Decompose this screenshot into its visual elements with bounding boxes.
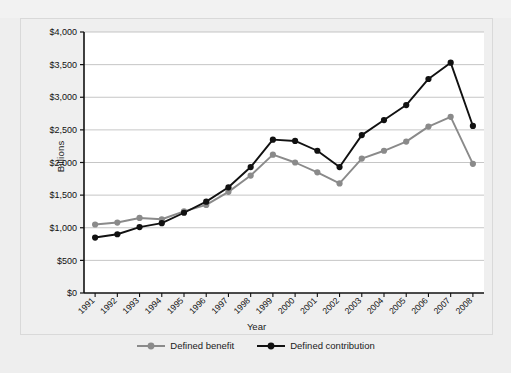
data-point	[381, 148, 387, 154]
chart-card: Billions Year $0$500$1,000$1,500$2,000$2…	[20, 18, 493, 335]
x-tick-label: 1998	[231, 295, 252, 316]
data-point	[136, 224, 142, 230]
y-tick-label: $1,500	[49, 190, 77, 200]
data-point	[314, 169, 320, 175]
x-tick-label: 1999	[254, 295, 275, 316]
legend-item-defined-benefit[interactable]: Defined benefit	[136, 340, 234, 351]
data-point	[270, 152, 276, 158]
figure-top-band	[0, 0, 511, 18]
legend-marker-icon	[136, 341, 166, 351]
data-point	[92, 234, 98, 240]
data-point	[203, 199, 209, 205]
y-tick-label: $0	[67, 288, 77, 298]
x-tick-label: 2003	[343, 295, 364, 316]
x-tick-label: 1994	[143, 295, 164, 316]
x-tick-label: 1992	[98, 295, 119, 316]
y-tick-label: $4,000	[49, 27, 77, 37]
x-tick-label: 1993	[120, 295, 141, 316]
x-tick-label: 1997	[209, 295, 230, 316]
data-point	[181, 210, 187, 216]
data-point	[336, 164, 342, 170]
x-tick-label: 2008	[454, 295, 475, 316]
data-point	[425, 124, 431, 130]
chart-legend: Defined benefitDefined contribution	[0, 340, 511, 351]
data-point	[470, 161, 476, 167]
x-tick-label: 1991	[76, 295, 97, 316]
data-point	[359, 155, 365, 161]
y-tick-label: $3,500	[49, 60, 77, 70]
y-tick-label: $500	[57, 256, 77, 266]
data-point	[470, 123, 476, 129]
x-tick-label: 2007	[431, 295, 452, 316]
data-point	[92, 221, 98, 227]
data-point	[336, 180, 342, 186]
data-point	[403, 102, 409, 108]
x-tick-label: 2006	[409, 295, 430, 316]
y-tick-label: $3,000	[49, 92, 77, 102]
x-tick-label: 2002	[320, 295, 341, 316]
data-point	[425, 76, 431, 82]
y-tick-label: $2,500	[49, 125, 77, 135]
data-point	[448, 114, 454, 120]
data-point	[359, 132, 365, 138]
x-tick-label: 1996	[187, 295, 208, 316]
data-point	[225, 184, 231, 190]
data-point	[314, 148, 320, 154]
plot-area: $0$500$1,000$1,500$2,000$2,500$3,000$3,5…	[21, 19, 492, 323]
data-point	[292, 138, 298, 144]
legend-marker-icon	[256, 341, 286, 351]
legend-label: Defined benefit	[170, 340, 234, 351]
data-point	[381, 117, 387, 123]
x-tick-label: 1995	[165, 295, 186, 316]
data-point	[270, 137, 276, 143]
x-tick-label: 2005	[387, 295, 408, 316]
data-point	[403, 139, 409, 145]
data-point	[448, 60, 454, 66]
y-tick-label: $1,000	[49, 223, 77, 233]
data-point	[136, 215, 142, 221]
x-tick-label: 2001	[298, 295, 319, 316]
chart-figure: Billions Year $0$500$1,000$1,500$2,000$2…	[0, 0, 511, 373]
data-point	[114, 231, 120, 237]
x-tick-label: 2000	[276, 295, 297, 316]
legend-label: Defined contribution	[290, 340, 375, 351]
x-tick-label: 2004	[365, 295, 386, 316]
y-tick-label: $2,000	[49, 158, 77, 168]
data-point	[159, 220, 165, 226]
legend-item-defined-contribution[interactable]: Defined contribution	[256, 340, 375, 351]
data-point	[114, 219, 120, 225]
line-chart-svg: $0$500$1,000$1,500$2,000$2,500$3,000$3,5…	[21, 19, 492, 319]
data-point	[248, 164, 254, 170]
data-point	[248, 172, 254, 178]
data-point	[292, 159, 298, 165]
